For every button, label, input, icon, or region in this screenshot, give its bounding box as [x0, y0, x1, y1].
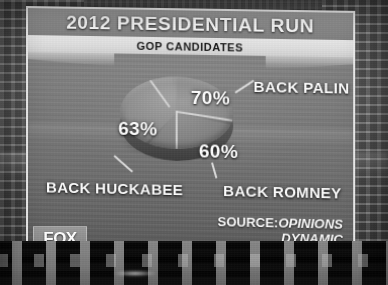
broadcast-graphic-panel: 2012 PRESIDENTIAL RUN GOP CANDIDATES 70%… [26, 6, 355, 257]
page-title: 2012 PRESIDENTIAL RUN [66, 11, 314, 37]
news-desk [0, 241, 388, 285]
slice-value-romney: 60% [199, 140, 238, 163]
source-line-1: SOURCE:OPINIONS [218, 214, 343, 232]
source-name-line-1: OPINIONS [278, 215, 343, 232]
slice-value-huckabee: 63% [118, 118, 157, 141]
slice-value-palin: 70% [191, 87, 230, 110]
slice-label-palin: BACK PALIN [254, 78, 350, 97]
desk-reflection [112, 270, 158, 277]
tv-screenshot: 2012 PRESIDENTIAL RUN GOP CANDIDATES 70%… [0, 0, 388, 285]
desk-pattern-row [0, 254, 388, 267]
page-subtitle: GOP CANDIDATES [137, 39, 244, 53]
source-prefix: SOURCE: [218, 214, 279, 230]
slice-label-huckabee: BACK HUCKABEE [46, 178, 183, 198]
slice-label-romney: BACK ROMNEY [223, 182, 341, 202]
